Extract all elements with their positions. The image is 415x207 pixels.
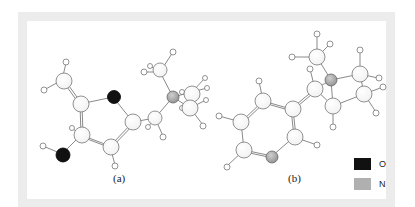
legend: O N	[354, 155, 386, 195]
oxygen-atom	[108, 91, 121, 104]
carbon-atom	[184, 86, 200, 102]
molecule-diagrams	[0, 0, 415, 207]
carbon-atom	[153, 63, 167, 77]
carbon-atom	[233, 114, 249, 130]
nitrogen-atom	[325, 74, 337, 86]
carbon-atom	[236, 142, 252, 158]
carbon-atom	[74, 127, 90, 143]
carbon-atom	[287, 129, 303, 145]
nitrogen-atom	[266, 151, 278, 163]
panel-label-b: (b)	[288, 172, 301, 184]
oxygen-atom	[56, 148, 70, 162]
carbon-atom	[182, 100, 198, 116]
carbon-atom	[352, 66, 368, 82]
carbon-atom	[255, 93, 271, 109]
nitrogen-atom	[167, 91, 179, 103]
legend-label: O	[379, 159, 386, 169]
nitrogen-swatch-icon	[354, 178, 371, 190]
carbon-atom	[103, 139, 119, 155]
carbon-atom	[73, 96, 89, 112]
carbon-atom	[325, 98, 341, 114]
panel-label-a: (a)	[113, 172, 125, 184]
carbon-atom	[307, 81, 323, 97]
legend-item-nitrogen: N	[354, 175, 386, 193]
carbon-atom	[285, 101, 301, 117]
legend-label: N	[379, 179, 386, 189]
carbon-atom	[148, 111, 162, 125]
carbon-atom	[309, 49, 325, 65]
carbon-atom	[125, 114, 141, 130]
carbon-atom	[56, 73, 72, 89]
carbon-atom	[356, 86, 372, 102]
legend-item-oxygen: O	[354, 155, 386, 173]
oxygen-swatch-icon	[354, 158, 371, 170]
